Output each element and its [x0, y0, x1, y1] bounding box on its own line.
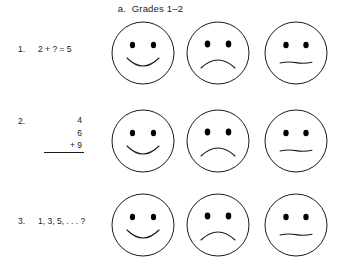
sad-face[interactable] [185, 20, 251, 86]
neutral-face[interactable] [263, 20, 329, 86]
problem-row: 2. 4 6 + 9 [0, 108, 349, 178]
neutral-face[interactable] [263, 108, 329, 174]
addend-one: 4 [44, 114, 86, 127]
problem-prompt: 3. 1, 3, 5, . . . ? [10, 192, 110, 262]
worksheet-figure: a. Grades 1–2 1. 2 + ? = 5 [0, 0, 349, 262]
happy-face[interactable] [110, 20, 176, 86]
addend-three: + 9 [44, 139, 86, 152]
addition-stack: 4 6 + 9 [44, 114, 86, 152]
problem-prompt: 1. 2 + ? = 5 [10, 20, 110, 90]
addend-two: 6 [44, 127, 86, 140]
problem-expression: 1, 3, 5, . . . ? [38, 216, 85, 226]
problem-row: 1. 2 + ? = 5 [0, 20, 349, 90]
sad-face[interactable] [185, 108, 251, 174]
problem-row: 3. 1, 3, 5, . . . ? [0, 192, 349, 262]
happy-face[interactable] [110, 192, 176, 258]
problem-expression: 2 + ? = 5 [38, 44, 72, 54]
problem-prompt: 2. 4 6 + 9 [10, 108, 110, 178]
problem-number: 2. [18, 116, 25, 126]
problem-number: 1. [18, 44, 25, 54]
problem-number: 3. [18, 216, 25, 226]
addition-rule [44, 152, 84, 153]
happy-face[interactable] [110, 108, 176, 174]
neutral-face[interactable] [263, 192, 329, 258]
sad-face[interactable] [185, 192, 251, 258]
face-rating-grid: 1. 2 + ? = 5 [0, 0, 349, 262]
